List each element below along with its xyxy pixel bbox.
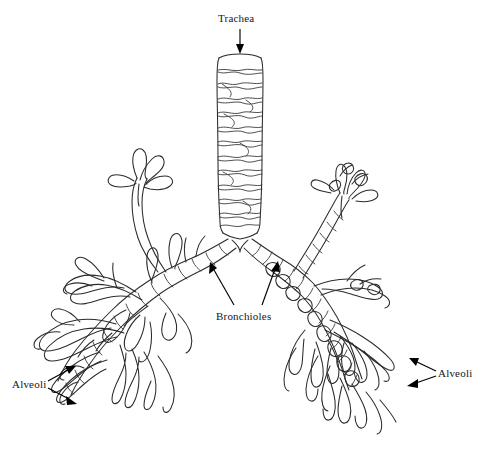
label-bronchioles: Bronchioles: [216, 310, 271, 322]
respiratory-tree-diagram: Trachea Bronchioles Alveoli Alveoli: [0, 0, 488, 453]
respiratory-tree-illustration: [0, 0, 488, 453]
label-trachea: Trachea: [218, 12, 254, 24]
carina-group: [223, 233, 257, 252]
trachea-group: [217, 54, 263, 233]
alveoli-right-arrow-upper: [409, 358, 436, 371]
trachea-arrow: [236, 29, 244, 54]
bronchioles-arrow-right: [262, 261, 280, 305]
label-alveoli-left: Alveoli: [12, 378, 46, 390]
label-alveoli-right: Alveoli: [438, 367, 472, 379]
bronchioles-arrow-left: [209, 262, 234, 305]
left-bronchial-tree: [34, 149, 236, 413]
alveoli-right-arrow-lower: [407, 376, 436, 388]
right-bronchial-tree: [244, 163, 396, 434]
annotation-layer: [48, 29, 436, 405]
